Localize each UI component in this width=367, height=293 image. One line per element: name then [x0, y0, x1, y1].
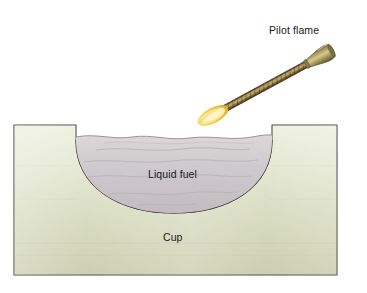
pilot-flame-label: Pilot flame: [269, 24, 319, 36]
diagram-figure: Pilot flame Liquid fuel Cup: [0, 0, 367, 293]
diagram-canvas: [0, 0, 367, 293]
liquid-fuel-label: Liquid fuel: [148, 168, 197, 180]
pilot-torch: [194, 43, 337, 131]
cup-label: Cup: [163, 231, 183, 243]
